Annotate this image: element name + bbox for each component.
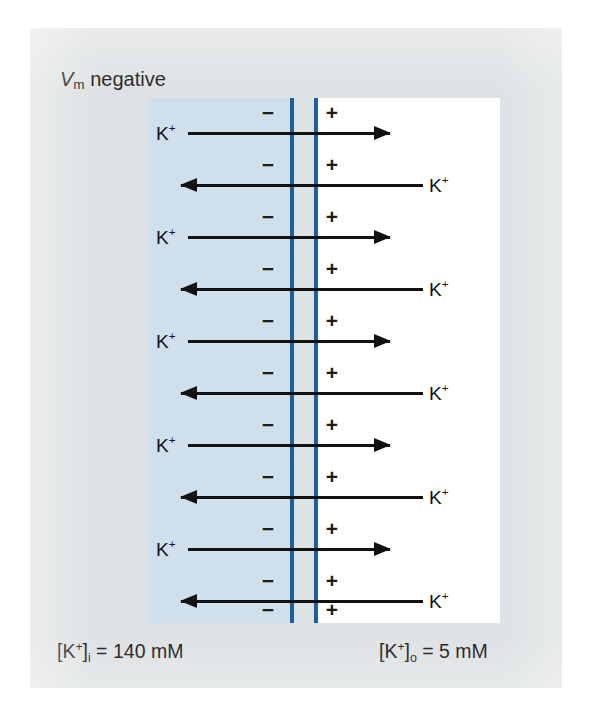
positive-charge-symbol: +	[326, 154, 338, 175]
figure-panel: Vm negative −+−+−+−+−+−+−+−+−+−+−+ K+K+K…	[30, 28, 562, 688]
positive-charge-symbol: +	[326, 102, 338, 123]
positive-charge-symbol: +	[326, 466, 338, 487]
ion-label-intracellular: K+	[156, 436, 176, 455]
ion-symbol: K	[156, 539, 169, 560]
negative-charge-symbol: −	[262, 258, 274, 279]
membrane-interleaflet-gap	[294, 98, 314, 623]
ion-charge: +	[442, 589, 449, 602]
ion-charge: +	[169, 225, 176, 238]
k-location-outside: o	[410, 651, 417, 665]
positive-charge-symbol: +	[326, 258, 338, 279]
arrow-shaft	[181, 496, 423, 499]
k-value-outside: 5 mM	[439, 640, 488, 662]
ion-symbol: K	[429, 175, 442, 196]
intracellular-concentration-label: [K+]i = 140 mM	[57, 642, 183, 662]
ion-symbol: K	[429, 383, 442, 404]
arrow-shaft	[181, 600, 423, 603]
ion-charge: +	[442, 173, 449, 186]
negative-charge-symbol: −	[262, 466, 274, 487]
positive-charge-symbol: +	[326, 414, 338, 435]
k-equals-outside: =	[417, 640, 439, 662]
k-value-inside: 140 mM	[113, 640, 183, 662]
arrow-head	[180, 386, 197, 400]
positive-charge-symbol: +	[326, 570, 338, 591]
arrow-shaft	[188, 444, 390, 447]
negative-charge-symbol: −	[262, 102, 274, 123]
ion-label-extracellular: K+	[429, 176, 449, 195]
ion-charge: +	[169, 329, 176, 342]
ion-symbol: K	[156, 331, 169, 352]
ion-symbol: K	[429, 487, 442, 508]
negative-charge-symbol: −	[262, 414, 274, 435]
membrane-potential-label: Vm negative	[60, 68, 166, 91]
ion-charge: +	[169, 433, 176, 446]
arrow-head	[180, 594, 197, 608]
k-charge-inside: +	[75, 640, 82, 654]
ion-symbol: K	[156, 435, 169, 456]
arrow-head	[374, 438, 391, 452]
positive-charge-symbol: +	[326, 206, 338, 227]
ion-label-intracellular: K+	[156, 228, 176, 247]
negative-charge-symbol: −	[262, 206, 274, 227]
arrow-shaft	[188, 548, 390, 551]
negative-charge-symbol: −	[262, 518, 274, 539]
vm-state: negative	[90, 68, 166, 90]
ion-symbol: K	[429, 279, 442, 300]
membrane-outer-leaflet	[314, 98, 318, 623]
k-equals-inside: =	[91, 640, 113, 662]
ion-charge: +	[169, 121, 176, 134]
ion-label-intracellular: K+	[156, 332, 176, 351]
arrow-head	[374, 230, 391, 244]
ion-label-extracellular: K+	[429, 280, 449, 299]
vm-symbol: Vm	[60, 68, 85, 90]
ion-label-extracellular: K+	[429, 592, 449, 611]
ion-charge: +	[442, 485, 449, 498]
negative-charge-symbol: −	[262, 362, 274, 383]
ion-label-extracellular: K+	[429, 384, 449, 403]
positive-charge-symbol: +	[326, 310, 338, 331]
extracellular-compartment	[315, 98, 500, 623]
membrane-inner-leaflet	[290, 98, 294, 623]
arrow-shaft	[188, 340, 390, 343]
negative-charge-symbol: −	[262, 570, 274, 591]
ion-charge: +	[442, 381, 449, 394]
ion-label-intracellular: K+	[156, 540, 176, 559]
arrow-head	[374, 126, 391, 140]
ion-label-intracellular: K+	[156, 124, 176, 143]
extracellular-concentration-label: [K+]o = 5 mM	[379, 642, 488, 662]
ion-charge: +	[442, 277, 449, 290]
negative-charge-symbol: −	[262, 154, 274, 175]
arrow-shaft	[188, 132, 390, 135]
ion-symbol: K	[156, 227, 169, 248]
arrow-shaft	[181, 184, 423, 187]
arrow-head	[180, 282, 197, 296]
arrow-head	[374, 542, 391, 556]
arrow-head	[374, 334, 391, 348]
ion-label-extracellular: K+	[429, 488, 449, 507]
arrow-shaft	[181, 392, 423, 395]
negative-charge-symbol: −	[262, 310, 274, 331]
k-charge-outside: +	[397, 640, 404, 654]
positive-charge-symbol: +	[326, 518, 338, 539]
ion-charge: +	[169, 537, 176, 550]
vm-subscript: m	[73, 77, 84, 92]
arrow-shaft	[181, 288, 423, 291]
ion-symbol: K	[156, 123, 169, 144]
arrow-shaft	[188, 236, 390, 239]
positive-charge-symbol: +	[326, 362, 338, 383]
ion-symbol: K	[429, 591, 442, 612]
arrow-head	[180, 178, 197, 192]
arrow-head	[180, 490, 197, 504]
membrane-diagram: −+−+−+−+−+−+−+−+−+−+−+ K+K+K+K+K+K+K+K+K…	[148, 98, 500, 623]
